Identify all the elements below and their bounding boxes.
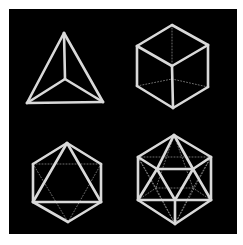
visible-edge [138,200,175,224]
visible-edge [137,86,173,108]
icosahedron-wireframe [138,135,211,224]
visible-edge [138,157,157,169]
hidden-edge [172,79,208,87]
visible-edge [27,102,103,103]
visible-edge [137,46,172,66]
visible-edge [64,33,65,79]
cube-wireframe [137,25,208,108]
visible-edge [172,25,208,45]
octahedron-wireframe [33,143,101,222]
visible-edge [172,45,208,66]
visible-edge [137,25,172,46]
visible-edge [157,169,175,200]
visible-edge [175,169,193,200]
tetrahedron-wireframe [27,33,103,103]
visible-edge [173,87,208,108]
visible-edge [175,200,211,224]
visible-edge [33,202,68,222]
hidden-edge [137,79,172,86]
visible-edge [193,157,211,169]
visible-edge [68,202,101,222]
visible-edge [172,66,173,108]
platonic-solids-figure [0,0,243,245]
